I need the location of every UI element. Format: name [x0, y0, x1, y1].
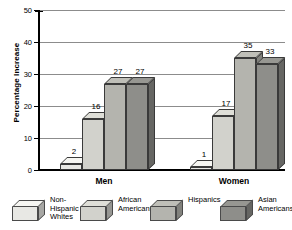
bar-chart: Percentage Increase 01020304050 21627271…	[0, 0, 292, 230]
bar-front	[104, 84, 126, 170]
legend-label: African Americans	[118, 196, 153, 213]
y-tick-20	[34, 106, 40, 107]
y-tick-label-10: 10	[16, 134, 32, 143]
bar-men-african-americans	[82, 119, 104, 170]
bar-men-hispanics	[104, 84, 126, 170]
y-tick-label-0: 0	[16, 166, 32, 175]
gridline-50	[38, 10, 285, 11]
data-label: 27	[127, 67, 153, 76]
y-tick-label-30: 30	[16, 70, 32, 79]
bar-front	[256, 64, 278, 170]
bar-women-non-hispanic-whites	[190, 167, 212, 170]
bar-front	[126, 84, 148, 170]
chart-legend: Non- Hispanic WhitesAfrican AmericansHis…	[4, 194, 292, 228]
bar-front	[234, 58, 256, 170]
legend-label: Hispanics	[188, 196, 221, 205]
bar-side	[148, 77, 155, 170]
data-label: 17	[213, 99, 239, 108]
bar-men-non-hispanic-whites	[60, 164, 82, 170]
bar-front	[190, 167, 212, 170]
legend-swatch-cube-icon	[150, 200, 176, 215]
legend-label: Non- Hispanic Whites	[50, 196, 79, 222]
y-axis-line	[38, 10, 40, 170]
y-tick-30	[34, 74, 40, 75]
bar-women-african-americans	[212, 116, 234, 170]
cube-front	[150, 206, 176, 221]
cube-front	[12, 206, 38, 221]
y-tick-0	[34, 170, 40, 171]
bar-women-asian-americans	[256, 64, 278, 170]
y-tick-50	[34, 10, 40, 11]
data-label: 2	[61, 147, 87, 156]
bar-front	[212, 116, 234, 170]
legend-swatch-cube-icon	[12, 200, 38, 215]
y-tick-10	[34, 138, 40, 139]
group-label-men: Men	[69, 176, 139, 186]
y-tick-label-40: 40	[16, 38, 32, 47]
legend-label: Asian Americans	[258, 196, 292, 213]
bar-men-asian-americans	[126, 84, 148, 170]
y-tick-label-50: 50	[16, 6, 32, 15]
y-tick-40	[34, 42, 40, 43]
data-label: 16	[83, 102, 109, 111]
legend-swatch-cube-icon	[80, 200, 106, 215]
bar-front	[60, 164, 82, 170]
bar-front	[82, 119, 104, 170]
cube-front	[80, 206, 106, 221]
legend-swatch-cube-icon	[220, 200, 246, 215]
bar-women-hispanics	[234, 58, 256, 170]
plot-area: 01020304050 21627271173533	[38, 10, 285, 170]
y-tick-label-20: 20	[16, 102, 32, 111]
cube-front	[220, 206, 246, 221]
group-label-women: Women	[199, 176, 269, 186]
bar-side	[278, 58, 285, 170]
data-label: 33	[257, 47, 283, 56]
data-label: 1	[191, 150, 217, 159]
